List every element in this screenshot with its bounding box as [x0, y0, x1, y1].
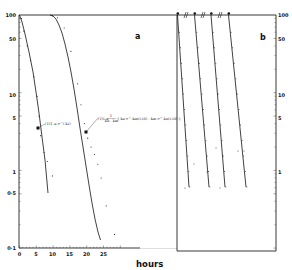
x-tick-label: 5 [34, 251, 38, 257]
y-tick-label: 0·1 [7, 245, 16, 251]
panel-b-observed-points [179, 32, 247, 189]
equation-1: (T)1 = e^(-kt) [40, 122, 72, 127]
equation-2: (T)t = 1 kn - km { kn e^-km(t-t0) - km e… [87, 114, 181, 131]
panel-b-curves [178, 15, 247, 187]
panel-a-curves [20, 15, 101, 240]
x-axis-title: hours [136, 259, 163, 269]
equation-2-numerator: 1 [110, 114, 112, 118]
curve-2-fit [50, 15, 101, 240]
y-tick-label: 10 [9, 92, 16, 98]
decay-1-line [178, 15, 190, 187]
decay-chart: 100 50 10 5 1 0·5 0·1 100 50 10 5 1 0 5 … [0, 0, 292, 270]
y-tick-label: 100 [278, 12, 289, 18]
curve-1-marker [37, 127, 40, 130]
y-tick-label: 5 [278, 115, 282, 121]
x-tick-label: 10 [49, 251, 56, 257]
y-tick-label: 0·5 [7, 190, 16, 196]
start-marker [194, 12, 197, 15]
x-tick-label: 0 [18, 251, 22, 257]
start-marker [177, 12, 180, 15]
x-axis-labels: 0 5 10 15 20 25 [18, 251, 108, 257]
decay-4-line [229, 15, 247, 187]
y-tick-label: 100 [6, 12, 17, 18]
decay-2-line [195, 15, 210, 187]
panel-label-a: a [135, 32, 140, 41]
y-tick-label: 5 [13, 115, 17, 121]
y-tick-label: 1 [13, 169, 17, 175]
equation-2-rhs: { kn e^-km(t-t0) - km e^-kn(t-t0) } [117, 117, 181, 121]
curve-1-fit [20, 15, 49, 193]
y-tick-label: 1 [278, 169, 282, 175]
left-axis-labels: 100 50 10 5 1 0·5 0·1 [6, 12, 17, 251]
panel-label-b: b [260, 33, 266, 42]
y-tick-label: 10 [278, 92, 285, 98]
y-tick-label: 50 [9, 36, 16, 42]
right-axis-labels: 100 50 10 5 1 [278, 12, 289, 175]
start-marker [228, 12, 231, 15]
y-tick-label: 50 [278, 36, 285, 42]
x-tick-label: 25 [100, 251, 107, 257]
x-tick-label: 15 [66, 251, 73, 257]
equation-1-text: (T)1 = e^(-kt) [45, 122, 71, 126]
x-tick-label: 20 [83, 251, 90, 257]
start-marker [210, 12, 213, 15]
decay-3-line [211, 15, 225, 187]
axes-frame [19, 15, 276, 251]
